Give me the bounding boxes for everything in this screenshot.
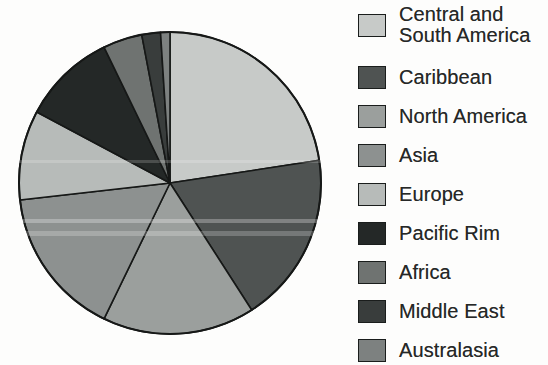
pie-chart <box>0 0 348 365</box>
legend-label: Europe <box>399 184 464 205</box>
legend-item-asia: Asia <box>358 144 544 167</box>
legend-swatch-asia <box>358 144 386 167</box>
legend-label: North America <box>399 106 527 127</box>
legend-item-africa: Africa <box>358 261 544 284</box>
legend-item-middle-east: Middle East <box>358 300 544 323</box>
legend-label: Asia <box>399 145 438 166</box>
legend-label: Middle East <box>399 301 505 322</box>
pie-area <box>0 0 348 365</box>
legend-item-central-and-south-america: Central andSouth America <box>358 4 544 46</box>
legend-swatch-central-and-south-america <box>358 14 386 37</box>
legend-swatch-australasia <box>358 339 386 362</box>
legend-item-north-america: North America <box>358 105 544 128</box>
legend-item-europe: Europe <box>358 183 544 206</box>
legend-swatch-europe <box>358 183 386 206</box>
legend-item-australasia: Australasia <box>358 339 544 362</box>
pie-chart-figure: Central andSouth AmericaCaribbeanNorth A… <box>0 0 548 365</box>
legend-swatch-pacific-rim <box>358 222 386 245</box>
legend-swatch-north-america <box>358 105 386 128</box>
legend: Central andSouth AmericaCaribbeanNorth A… <box>358 4 544 365</box>
legend-label: Africa <box>399 262 451 283</box>
pie-slice-central-and-south-america <box>170 32 319 183</box>
legend-swatch-africa <box>358 261 386 284</box>
legend-item-caribbean: Caribbean <box>358 66 544 89</box>
legend-swatch-middle-east <box>358 300 386 323</box>
legend-label: Central andSouth America <box>399 4 530 46</box>
legend-item-pacific-rim: Pacific Rim <box>358 222 544 245</box>
legend-label: Pacific Rim <box>399 223 500 244</box>
legend-label: Australasia <box>399 340 499 361</box>
legend-label: Caribbean <box>399 67 492 88</box>
legend-swatch-caribbean <box>358 66 386 89</box>
